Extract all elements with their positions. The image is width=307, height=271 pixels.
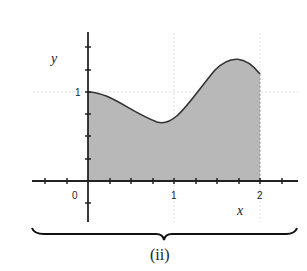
brace: [32, 228, 297, 240]
tick-x-0: 0: [72, 190, 78, 201]
tick-y-1: 1: [75, 87, 81, 98]
x-axis-label: x: [236, 203, 244, 218]
y-axis-label: y: [49, 51, 58, 66]
tick-x-2: 2: [257, 190, 263, 201]
area-chart: 0 1 2 1 y x (ii): [0, 0, 307, 271]
caption: (ii): [150, 246, 170, 264]
tick-x-1: 1: [171, 190, 177, 201]
